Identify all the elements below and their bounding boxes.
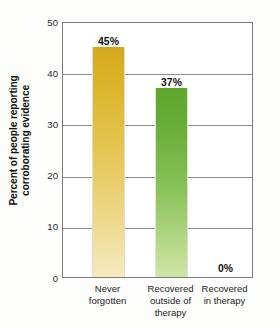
- y-tick-label-0: 0: [32, 274, 58, 284]
- value-label-recovered-outside-of-therapy: 37%: [148, 77, 195, 88]
- y-tick-label-30: 30: [32, 120, 58, 130]
- y-tick-label-50: 50: [32, 18, 58, 28]
- y-tick-label-40: 40: [32, 69, 58, 79]
- value-label-recovered-in-therapy: 0%: [202, 263, 249, 274]
- y-axis-tick-labels: 50 40 30 20 10 0: [32, 0, 58, 329]
- bar-never-forgotten[interactable]: [92, 47, 125, 277]
- x-category-label-recovered-in-therapy: Recovered in therapy: [188, 283, 261, 307]
- x-axis-category-labels: Never forgotten Recovered outside of the…: [62, 283, 253, 329]
- y-tick-label-10: 10: [32, 222, 58, 232]
- y-axis-title: Percent of people reporting corroboratin…: [8, 32, 33, 248]
- bar-chart-figure: Percent of people reporting corroboratin…: [0, 0, 280, 329]
- y-tick-label-20: 20: [32, 171, 58, 181]
- value-label-never-forgotten: 45%: [85, 36, 132, 47]
- bar-recovered-outside-of-therapy[interactable]: [155, 88, 188, 277]
- plot-area: 45% 37% 0%: [62, 22, 253, 278]
